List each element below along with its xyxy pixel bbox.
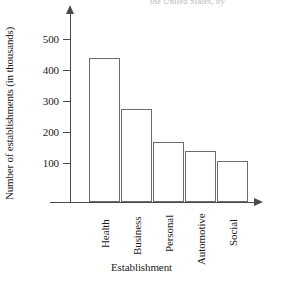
x-category-label-social: Social	[228, 219, 239, 246]
bar-automotive	[185, 151, 216, 202]
y-tick-label: 100	[43, 158, 59, 169]
bar-business	[121, 109, 152, 202]
y-axis-title: Number of establishments (in thousands)	[4, 27, 15, 200]
y-tick-mark	[63, 70, 71, 71]
x-category-label-health: Health	[100, 219, 111, 248]
bar-chart-figure: the United States, by 500 400 300 200 10…	[0, 0, 283, 285]
y-tick-mark	[63, 163, 71, 164]
x-axis-arrow-icon	[254, 198, 263, 206]
x-axis-title: Establishment	[0, 262, 283, 273]
bar-social	[217, 161, 248, 202]
x-category-label-personal: Personal	[164, 215, 175, 252]
y-axis-arrow-icon	[66, 5, 74, 14]
x-category-label-automotive: Automotive	[196, 213, 207, 265]
y-axis-line	[70, 12, 71, 203]
bar-personal	[153, 142, 184, 202]
y-tick-label: 200	[43, 127, 59, 138]
x-axis-line	[50, 202, 255, 203]
y-tick-label: 500	[43, 34, 59, 45]
y-tick-mark	[63, 39, 71, 40]
y-tick-mark	[63, 101, 71, 102]
y-tick-mark	[63, 132, 71, 133]
y-tick-label: 400	[43, 65, 59, 76]
x-category-label-business: Business	[132, 217, 143, 255]
plot-area: 500 400 300 200 100 Health Business Pers…	[0, 0, 283, 285]
y-tick-label: 300	[43, 96, 59, 107]
bar-health	[89, 58, 120, 202]
